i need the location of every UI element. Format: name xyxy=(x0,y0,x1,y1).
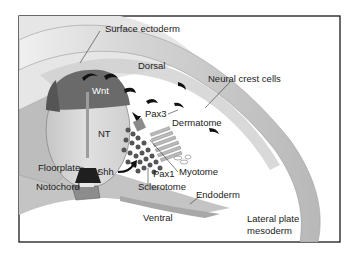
label-dorsal: Dorsal xyxy=(138,60,165,71)
label-dermatome: Dermatome xyxy=(172,117,222,128)
label-ventral: Ventral xyxy=(143,212,173,223)
label-floorplate: Floorplate xyxy=(38,162,80,173)
label-lateral-plate-line1: Lateral plate xyxy=(247,213,299,224)
label-sclerotome: Sclerotome xyxy=(138,181,186,192)
label-neural-crest-cells: Neural crest cells xyxy=(208,73,281,84)
somite-patterning-diagram: Surface ectoderm Dorsal Neural crest cel… xyxy=(0,0,355,255)
floorplate-gap xyxy=(80,183,94,187)
label-wnt: Wnt xyxy=(92,85,109,96)
label-shh: Shh xyxy=(97,166,114,177)
label-pax1: Pax1 xyxy=(153,168,175,179)
neural-tube-lumen xyxy=(86,92,89,158)
label-lateral-plate-line2: mesoderm xyxy=(247,225,292,236)
label-myotome: Myotome xyxy=(179,166,218,177)
label-nt: NT xyxy=(98,128,111,139)
label-notochord: Notochord xyxy=(36,181,80,192)
label-pax3: Pax3 xyxy=(145,108,167,119)
label-surface-ectoderm: Surface ectoderm xyxy=(105,23,180,34)
label-endoderm: Endoderm xyxy=(196,189,240,200)
